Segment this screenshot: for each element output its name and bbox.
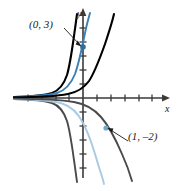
exponential-functions-figure: (0, 3) (1, –2) x y xyxy=(0,0,178,191)
x-axis-arrow-icon xyxy=(162,95,170,102)
curve-lower-middle-lightblue xyxy=(14,99,104,184)
data-point-marker-0-3 xyxy=(80,44,86,50)
curve-lower-left-gray xyxy=(14,99,77,182)
x-axis-label: x xyxy=(165,104,169,114)
curve-lower-right-gray xyxy=(14,99,132,181)
graph-canvas xyxy=(0,0,178,191)
y-axis-label: y xyxy=(77,9,81,19)
axes-group xyxy=(14,8,170,178)
annotation-label-point-1-neg2: (1, –2) xyxy=(128,131,157,142)
annotation-label-point-0-3: (0, 3) xyxy=(29,19,53,30)
data-point-marker-1-neg2 xyxy=(103,125,108,130)
